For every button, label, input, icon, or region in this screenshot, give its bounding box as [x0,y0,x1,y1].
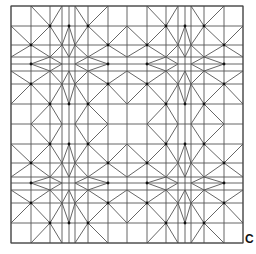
grid-lines [11,6,243,243]
figure-label: C [245,233,254,245]
vertex-dots [30,25,226,225]
crease-pattern-diagram [0,0,256,254]
